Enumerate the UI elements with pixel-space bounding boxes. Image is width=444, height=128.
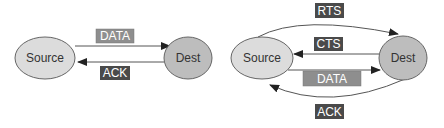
dest-node: Dest [379, 36, 427, 80]
rts-arrow [258, 25, 398, 37]
source-node: Source [231, 37, 293, 79]
ack-frame-label: ACK [100, 66, 130, 80]
ack-frame-label: ACK [315, 104, 344, 119]
dest-label: Dest [176, 51, 201, 65]
cts-frame-label: CTS [314, 37, 343, 51]
left-diagram: Source Dest DATA ACK [15, 29, 212, 80]
source-node: Source [15, 37, 75, 79]
right-diagram: Source Dest RTS CTS DATA ACK [231, 3, 427, 119]
diagram-canvas: Source Dest DATA ACK Source [0, 0, 444, 128]
svg-text:DATA: DATA [100, 29, 130, 43]
rts-frame-label: RTS [315, 3, 344, 18]
svg-text:CTS: CTS [317, 37, 341, 51]
dest-label: Dest [391, 51, 416, 65]
data-frame-label: DATA [303, 71, 361, 86]
svg-text:DATA: DATA [317, 72, 347, 86]
dest-node: Dest [164, 37, 212, 79]
data-frame-label: DATA [96, 29, 134, 43]
svg-text:ACK: ACK [317, 105, 342, 119]
svg-text:ACK: ACK [103, 66, 128, 80]
source-label: Source [243, 51, 281, 65]
svg-text:RTS: RTS [318, 4, 342, 18]
source-label: Source [26, 51, 64, 65]
